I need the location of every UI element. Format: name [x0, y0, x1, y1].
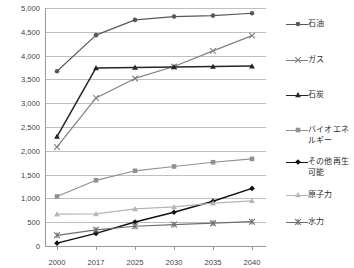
data-point-square: [250, 157, 255, 162]
series-line: [55, 11, 255, 74]
legend-label: バイオエネ ルギー: [308, 124, 349, 146]
x-axis-tick: [174, 246, 175, 250]
legend-marker-triangle-icon: [286, 90, 308, 100]
data-point-cross: [295, 57, 301, 63]
line-chart: 05001,0001,5002,0002,5003,0003,5004,0004…: [0, 0, 354, 268]
legend-item[interactable]: 原子力: [286, 189, 333, 200]
y-axis-tick-label: 5,000: [21, 4, 40, 13]
legend-label: 石油: [308, 18, 324, 29]
data-point-cross: [54, 144, 60, 150]
legend-label: 原子力: [308, 189, 333, 200]
x-axis-tick: [57, 246, 58, 250]
data-point-circle: [250, 11, 255, 16]
y-axis-tick-label: 3,000: [21, 99, 40, 108]
legend-label: ガス: [308, 54, 324, 65]
data-point-diamond: [54, 240, 60, 246]
data-point-square: [133, 168, 138, 173]
data-point-circle: [55, 69, 60, 74]
y-axis-tick-label: 3,500: [21, 75, 40, 84]
series-line: [55, 157, 255, 199]
series-line: [54, 198, 255, 217]
legend-label: その他再生 可能: [308, 156, 349, 178]
data-point-square: [94, 178, 99, 183]
legend-item[interactable]: 水力: [286, 216, 324, 227]
series-line: [54, 33, 255, 150]
legend-marker-asterisk-icon: [286, 217, 308, 227]
data-point-triangle: [295, 192, 301, 197]
legend-marker-cross-icon: [286, 55, 308, 65]
x-axis-tick-label: 2017: [88, 258, 105, 267]
legend-item[interactable]: 石炭: [286, 89, 324, 100]
x-axis-tick: [96, 246, 97, 250]
x-axis-tick-label: 2000: [49, 258, 66, 267]
data-point-diamond: [171, 209, 177, 215]
legend-marker-diamond-icon: [286, 157, 308, 167]
x-axis-tick-label: 2035: [205, 258, 222, 267]
data-point-triangle: [295, 92, 301, 97]
y-axis-tick-label: 4,500: [21, 27, 40, 36]
y-axis-tick-label: 1,500: [21, 170, 40, 179]
data-point-cross: [210, 48, 216, 54]
data-point-cross: [93, 95, 99, 101]
series-line: [54, 186, 255, 246]
x-axis-tick-label: 2040: [244, 258, 261, 267]
x-axis-tick: [252, 246, 253, 250]
y-axis-tick-label: 0: [36, 242, 40, 251]
data-point-diamond: [295, 159, 301, 165]
legend-item[interactable]: 石油: [286, 18, 324, 29]
data-point-circle: [94, 33, 99, 38]
x-axis-tick: [213, 246, 214, 250]
x-axis-line: [45, 246, 266, 247]
legend-marker-circle-icon: [286, 19, 308, 29]
legend-item[interactable]: バイオエネ ルギー: [286, 124, 349, 146]
series-line: [54, 219, 255, 238]
data-point-cross: [249, 33, 255, 39]
data-point-square: [55, 194, 60, 199]
legend-item[interactable]: ガス: [286, 54, 324, 65]
data-point-circle: [296, 22, 301, 27]
y-axis-tick-label: 500: [27, 218, 40, 227]
data-point-square: [211, 160, 216, 165]
legend-item[interactable]: その他再生 可能: [286, 156, 349, 178]
legend-label: 石炭: [308, 89, 324, 100]
legend-marker-triangle-icon: [286, 190, 308, 200]
chart-legend: 石油ガス石炭バイオエネ ルギーその他再生 可能原子力水力: [286, 0, 354, 268]
data-point-circle: [133, 18, 138, 23]
legend-label: 水力: [308, 216, 324, 227]
y-axis-tick-label: 4,000: [21, 51, 40, 60]
data-point-square: [296, 128, 301, 133]
series-line: [54, 63, 255, 139]
legend-marker-square-icon: [286, 125, 308, 135]
data-point-diamond: [249, 186, 255, 192]
x-axis-tick-label: 2025: [127, 258, 144, 267]
y-axis-tick-label: 2,500: [21, 123, 40, 132]
series-layer: [45, 8, 266, 246]
data-point-square: [172, 164, 177, 169]
data-point-circle: [211, 13, 216, 18]
x-axis-tick: [135, 246, 136, 250]
y-axis-tick-label: 1,000: [21, 194, 40, 203]
y-axis-tick-label: 2,000: [21, 146, 40, 155]
plot-area: 200020172025203020352040: [45, 8, 266, 246]
data-point-circle: [172, 14, 177, 19]
data-point-asterisk: [295, 219, 301, 225]
x-axis-tick-label: 2030: [166, 258, 183, 267]
